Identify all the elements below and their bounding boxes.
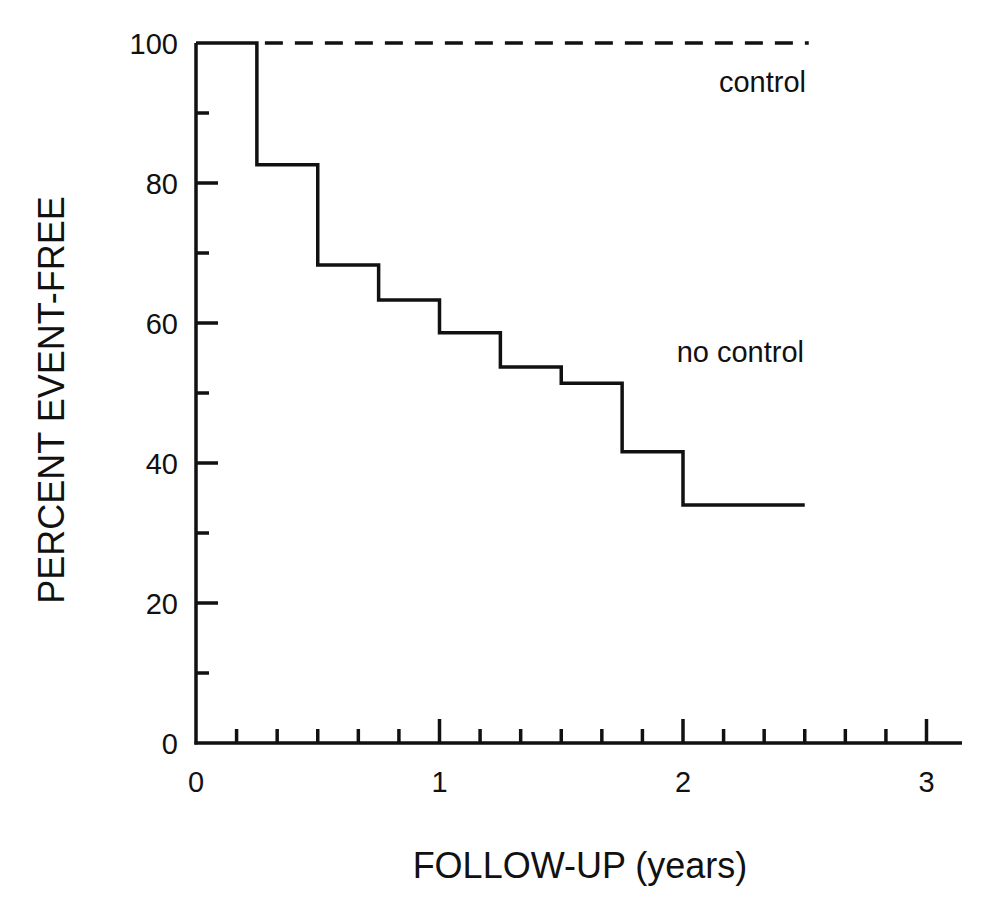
y-axis-title: PERCENT EVENT-FREE [31,196,72,603]
y-tick-label: 20 [146,588,178,620]
x-tick-label: 3 [918,766,934,798]
y-tick-label: 40 [146,448,178,480]
x-tick-label: 2 [675,766,691,798]
y-tick-label: 60 [146,308,178,340]
y-axis: 020406080100 [130,28,218,760]
series-no-control [196,43,805,505]
x-tick-label: 0 [188,766,204,798]
y-tick-label: 0 [162,728,178,760]
y-tick-label: 80 [146,168,178,200]
x-tick-label: 1 [431,766,447,798]
x-axis: 0123 [188,719,962,798]
y-tick-label: 100 [130,28,178,60]
km-chart: 020406080100 0123 control no control FOL… [0,0,987,922]
label-no-control: no control [677,336,804,368]
x-axis-title: FOLLOW-UP (years) [413,845,748,886]
label-control: control [719,66,806,98]
no-control-step-line [196,43,805,505]
